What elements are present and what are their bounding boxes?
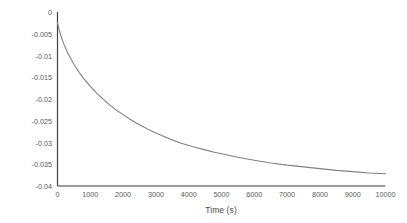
plot-area [0,0,407,223]
axis-spines [58,12,386,186]
data-series-group [58,23,386,174]
creep-curve [58,23,386,174]
creep-vs-time-chart: 0-0.005-0.01-0.015-0.02-0.025-0.03-0.035… [0,0,407,223]
